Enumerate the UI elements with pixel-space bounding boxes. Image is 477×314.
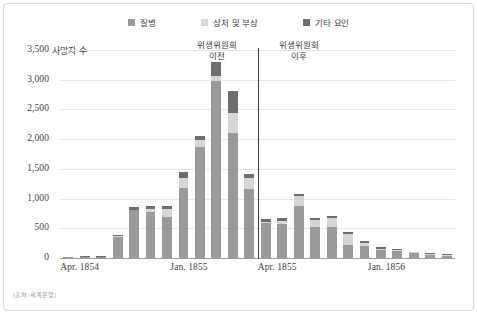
bar-segment-질병	[63, 257, 73, 258]
y-tick-label-1500: 1,500	[5, 163, 49, 173]
legend-item-wounds[interactable]: 상처 및 부상	[201, 16, 257, 28]
y-tick-label-2500: 2,500	[5, 103, 49, 113]
bar-segment-상처 및 부상	[162, 209, 172, 217]
bar-jan--1856[interactable]	[409, 252, 419, 258]
y-tick-label-1000: 1,000	[5, 193, 49, 203]
bar-nov--1855[interactable]	[376, 247, 386, 258]
bar-jun--1855[interactable]	[294, 194, 304, 258]
bar-segment-상처 및 부상	[327, 218, 337, 226]
bar-apr--1855[interactable]	[261, 219, 271, 258]
bar-jan--1855[interactable]	[211, 62, 221, 258]
y-tick-label-500: 500	[5, 222, 49, 232]
bar-segment-상처 및 부상	[294, 196, 304, 206]
y-tick-label-3000: 3,000	[5, 74, 49, 84]
bar-segment-질병	[360, 246, 370, 258]
bar-segment-질병	[162, 217, 172, 258]
bar-segment-질병	[96, 257, 106, 258]
bar-segment-질병	[129, 210, 139, 258]
bar-segment-질병	[211, 81, 221, 258]
bar-segment-기타 요인	[228, 91, 238, 113]
bar-segment-질병	[425, 255, 435, 258]
bar-apr--1854[interactable]	[63, 257, 73, 258]
bar-segment-질병	[277, 224, 287, 258]
legend-item-other[interactable]: 기타 요인	[303, 16, 349, 28]
bar-aug--1854[interactable]	[129, 207, 139, 258]
bar-oct--1854[interactable]	[162, 206, 172, 258]
annotation-after-sanitary-commission: 위생위원회이후	[264, 40, 334, 61]
bar-feb--1855[interactable]	[228, 91, 238, 258]
bar-jul--1854[interactable]	[113, 235, 123, 258]
bar-segment-상처 및 부상	[343, 234, 353, 245]
bar-may-1854[interactable]	[80, 256, 90, 258]
chart-figure: 질병상처 및 부상기타 요인 사망자 수 3,5003,0002,5002,00…	[0, 0, 477, 314]
bar-segment-질병	[228, 133, 238, 258]
bar-segment-질병	[261, 223, 271, 258]
chart-legend: 질병상처 및 부상기타 요인	[0, 14, 477, 30]
bar-mar--1856[interactable]	[442, 254, 452, 258]
bar-aug--1855[interactable]	[327, 216, 337, 258]
source-note: (출처: 세계은행)	[13, 290, 56, 299]
bar-segment-질병	[113, 237, 123, 258]
bar-segment-질병	[327, 227, 337, 258]
bar-oct--1855[interactable]	[360, 241, 370, 258]
legend-label-wounds: 상처 및 부상	[213, 16, 257, 28]
bar-segment-질병	[244, 189, 254, 258]
x-tick-label-apr--1855: Apr. 1855	[258, 262, 297, 272]
bar-segment-질병	[409, 253, 419, 258]
bar-may-1855[interactable]	[277, 218, 287, 258]
legend-swatch-other	[303, 19, 310, 26]
bar-segment-상처 및 부상	[195, 140, 205, 147]
legend-swatch-wounds	[201, 19, 208, 26]
x-tick-label-jan--1856: Jan. 1856	[368, 262, 405, 272]
bar-jun--1854[interactable]	[96, 256, 106, 258]
legend-label-other: 기타 요인	[315, 16, 349, 28]
bar-mar--1855[interactable]	[244, 174, 254, 258]
y-tick-label-3500: 3,500	[5, 44, 49, 54]
bar-segment-상처 및 부상	[244, 178, 254, 189]
bar-nov--1854[interactable]	[179, 172, 189, 258]
bar-jul--1855[interactable]	[310, 218, 320, 258]
legend-item-disease[interactable]: 질병	[128, 16, 156, 28]
y-tick-label-0: 0	[5, 252, 49, 262]
x-tick-label-jan--1855: Jan. 1855	[170, 262, 207, 272]
annotation-line-2: 이전	[182, 51, 252, 62]
sanitary-commission-divider	[258, 48, 259, 259]
legend-swatch-disease	[128, 19, 135, 26]
bar-segment-상처 및 부상	[179, 178, 189, 188]
bar-segment-질병	[195, 147, 205, 258]
bar-dec--1855[interactable]	[392, 249, 402, 258]
annotation-before-sanitary-commission: 위생위원회이전	[182, 40, 252, 61]
annotation-line-2: 이후	[264, 51, 334, 62]
bar-segment-상처 및 부상	[310, 220, 320, 227]
bar-segment-질병	[376, 250, 386, 258]
bar-segment-질병	[294, 206, 304, 258]
bar-sep--1854[interactable]	[146, 206, 156, 258]
bar-segment-질병	[179, 188, 189, 258]
bar-dec--1854[interactable]	[195, 136, 205, 258]
annotation-line-1: 위생위원회	[182, 40, 252, 51]
bar-sep--1855[interactable]	[343, 232, 353, 258]
bar-segment-질병	[310, 227, 320, 258]
y-tick-label-2000: 2,000	[5, 133, 49, 143]
bar-segment-질병	[80, 257, 90, 258]
annotation-line-1: 위생위원회	[264, 40, 334, 51]
x-tick-label-apr--1854: Apr. 1854	[60, 262, 99, 272]
bar-segment-질병	[442, 256, 452, 258]
bar-segment-질병	[146, 212, 156, 258]
bar-feb--1856[interactable]	[425, 253, 435, 258]
bar-segment-기타 요인	[211, 62, 221, 76]
bar-segment-질병	[343, 245, 353, 258]
bar-segment-질병	[392, 251, 402, 258]
bar-segment-상처 및 부상	[228, 113, 238, 133]
legend-label-disease: 질병	[140, 16, 156, 28]
